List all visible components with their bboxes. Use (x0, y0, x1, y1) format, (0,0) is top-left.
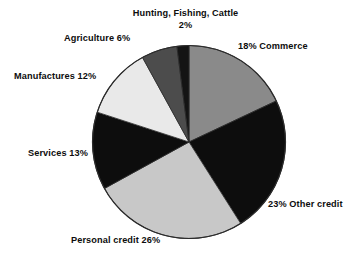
slice-label-hunting-fishing-cattle-name: Hunting, Fishing, Cattle (133, 8, 239, 18)
slice-label-hunting-fishing-cattle-percent: 2% (179, 20, 192, 30)
slice-label-personal-credit: Personal credit 26% (71, 235, 160, 247)
slice-label-other-credit: 23% Other credit (268, 199, 343, 211)
pie-chart-graphic (0, 0, 358, 261)
pie-chart-figure: Hunting, Fishing, Cattle 2% Agriculture … (0, 0, 358, 261)
slice-label-manufactures: Manufactures 12% (14, 71, 96, 83)
slice-label-services: Services 13% (28, 148, 88, 160)
slice-label-agriculture: Agriculture 6% (64, 33, 130, 45)
pie-slice-group (92, 46, 285, 239)
slice-label-commerce: 18% Commerce (238, 41, 308, 53)
slice-label-hunting-fishing-cattle: Hunting, Fishing, Cattle 2% (113, 8, 258, 31)
